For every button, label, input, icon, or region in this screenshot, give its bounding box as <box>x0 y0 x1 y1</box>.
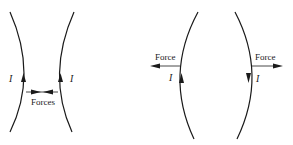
current-arrow-up-icon <box>58 73 63 82</box>
force-arrow-left-icon <box>150 64 160 69</box>
force-label-right: Force <box>255 52 276 62</box>
left-wire <box>10 12 24 132</box>
left-wire <box>180 12 198 139</box>
diagram-canvas: I I Forces I I Force Force <box>0 0 293 145</box>
force-label-left: Force <box>155 52 176 62</box>
right-wire <box>59 12 74 132</box>
antiparallel-currents-diagram: I I Force Force <box>150 12 283 139</box>
parallel-currents-diagram: I I Forces <box>8 12 74 132</box>
current-label-right: I <box>69 73 74 84</box>
force-arrow-right-icon <box>273 64 283 69</box>
current-arrow-down-icon <box>246 73 251 83</box>
current-label-left: I <box>8 73 13 84</box>
current-label-right: I <box>255 73 260 84</box>
force-arrow-left-icon <box>43 90 53 95</box>
force-arrow-right-icon <box>31 90 41 95</box>
current-arrow-up-icon <box>21 73 26 82</box>
forces-label: Forces <box>31 97 55 107</box>
current-label-left: I <box>168 72 173 83</box>
